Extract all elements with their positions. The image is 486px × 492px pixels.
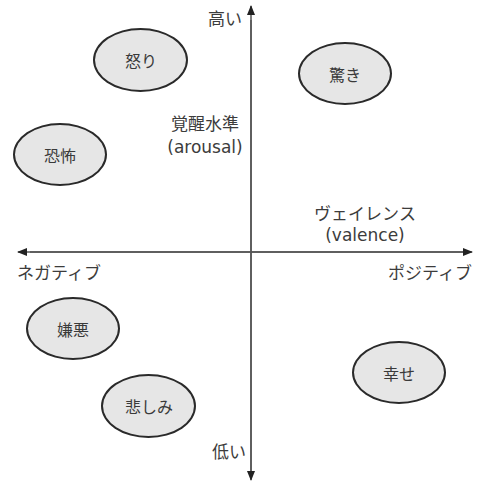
emotion-anger: 怒り bbox=[93, 28, 188, 92]
valence-axis-name-en: (valence) bbox=[308, 225, 422, 245]
axes bbox=[0, 0, 486, 492]
emotion-happiness: 幸せ bbox=[352, 341, 446, 404]
valence-axis-name: ヴェイレンス bbox=[308, 204, 422, 224]
emotion-label: 怒り bbox=[125, 48, 157, 72]
arousal-high-label: 高い bbox=[208, 9, 242, 29]
emotion-label: 嫌悪 bbox=[57, 317, 89, 341]
emotion-label: 幸せ bbox=[383, 361, 415, 385]
emotion-surprise: 驚き bbox=[298, 42, 392, 105]
emotion-label: 悲しみ bbox=[125, 394, 173, 418]
emotion-sadness: 悲しみ bbox=[101, 374, 196, 438]
valence-positive-label: ポジティブ bbox=[388, 263, 472, 283]
emotion-disgust: 嫌悪 bbox=[26, 297, 120, 360]
emotion-label: 驚き bbox=[329, 62, 361, 86]
diagram-canvas: 高い 低い ネガティブ ポジティブ 覚醒水準 (arousal) ヴェイレンス … bbox=[0, 0, 486, 492]
arousal-axis-name: 覚醒水準 bbox=[160, 114, 250, 134]
arousal-low-label: 低い bbox=[212, 442, 246, 462]
valence-negative-label: ネガティブ bbox=[17, 263, 101, 283]
emotion-fear: 恐怖 bbox=[13, 123, 107, 186]
arousal-axis-name-en: (arousal) bbox=[160, 137, 250, 157]
emotion-label: 恐怖 bbox=[44, 143, 76, 167]
